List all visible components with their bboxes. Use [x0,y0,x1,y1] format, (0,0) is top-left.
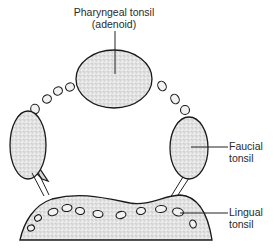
faucial-label-line2: tonsil [229,152,254,164]
lingual-label-line2: tonsil [229,218,254,230]
pharyngeal-label-line2: (adenoid) [92,18,136,30]
lymphoid-nodule [41,93,53,104]
faucial-label-line1: Faucial [229,140,263,152]
pharyngeal-label-line1: Pharyngeal tonsil [74,6,155,18]
right-nodule-chain [156,80,189,115]
lymphoid-nodule [181,106,190,115]
left-nodule-chain [30,82,76,115]
lymphoid-nodule [64,82,75,93]
lingual-label-line1: Lingual [229,206,263,218]
tonsil-diagram: Pharyngeal tonsil (adenoid) Faucial tons… [0,0,274,249]
pharyngeal-tonsil [76,50,152,108]
left-faucial-tonsil [10,111,49,196]
lymphoid-nodule [52,85,64,96]
lingual-tonsil [20,195,212,240]
lymphoid-nodule [169,93,181,106]
right-faucial-tonsil [170,117,208,198]
lymphoid-nodule [156,80,168,93]
lymphoid-nodule [155,205,167,213]
